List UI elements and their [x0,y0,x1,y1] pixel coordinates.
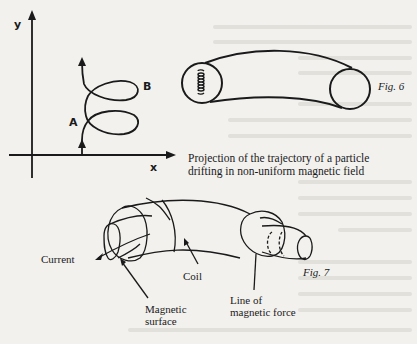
coil-band-left [162,200,175,252]
coil-leader [186,242,198,264]
magnetic-surface-label: Magnetic surface [145,303,187,327]
magnetic-surface-line-1: Magnetic [145,303,187,315]
line-of-force-line-2: magnetic force [230,306,296,318]
coil-label: Coil [183,270,202,282]
magnetic-surface-line-2: surface [145,315,187,327]
line-of-force-leader [254,254,256,290]
dashed-ring-1 [268,232,273,254]
toroidal-magnetic-surface-diagram [0,0,417,344]
line-of-force-line-1: Line of [230,294,296,306]
right-inner-end [297,236,312,259]
torus-outer-top [122,200,250,214]
current-label: Current [41,253,75,265]
current-arrowhead [95,253,103,260]
fig7-label: Fig. 7 [303,266,329,278]
magnetic-surface-leader [122,262,148,298]
line-of-force-label: Line of magnetic force [230,294,296,318]
left-inner-end [104,224,120,260]
